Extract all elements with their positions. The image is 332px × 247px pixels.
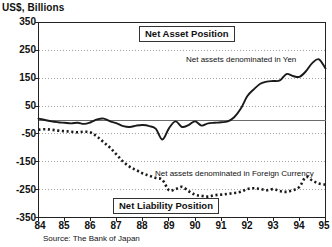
- x-tick-90: 90: [189, 220, 200, 231]
- x-tick-89: 89: [163, 220, 174, 231]
- y-tick-neg50: -50: [2, 128, 36, 139]
- y-tick-150: 150: [2, 72, 36, 83]
- x-axis-tick-labels: 84 85 86 87 88 89 90 91 92 93 94 95: [0, 220, 332, 234]
- x-tick-95: 95: [318, 220, 329, 231]
- y-tick-neg150: -150: [2, 156, 36, 167]
- y-tick-50: 50: [2, 100, 36, 111]
- x-tick-94: 94: [293, 220, 304, 231]
- y-tick-350: 350: [2, 16, 36, 27]
- x-tick-91: 91: [215, 220, 226, 231]
- y-tick-neg250: -250: [2, 184, 36, 195]
- net-liability-position-label: Net Liability Position: [113, 198, 219, 214]
- y-tick-250: 250: [2, 44, 36, 55]
- x-tick-87: 87: [110, 220, 121, 231]
- x-tick-92: 92: [241, 220, 252, 231]
- net-asset-position-label: Net Asset Position: [139, 26, 235, 42]
- source-note: Source: The Bank of Japan: [43, 234, 140, 243]
- y-axis-tick-labels: 350 250 150 50 -50 -150 -250 -350: [0, 0, 36, 247]
- series-annotation-yen: Net assets denominated in Yen: [186, 55, 296, 64]
- x-tick-85: 85: [58, 220, 69, 231]
- chart-container: US$, Billions 350 250 150 50 -50 -150 -2…: [0, 0, 332, 247]
- x-tick-84: 84: [34, 220, 45, 231]
- series-annotation-foreign-currency: Net assets denominated in Foreign Curren…: [155, 169, 314, 178]
- x-tick-88: 88: [136, 220, 147, 231]
- x-tick-93: 93: [267, 220, 278, 231]
- x-tick-86: 86: [84, 220, 95, 231]
- plot-area: [38, 22, 326, 218]
